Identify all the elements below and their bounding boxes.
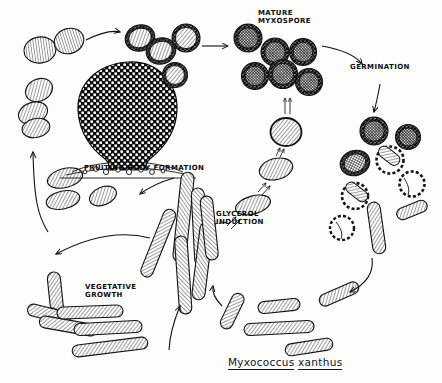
label-mature-myxospore: MATURE MYXOSPORE [258, 10, 311, 26]
mature-myxospore-cell [234, 24, 262, 52]
vegetative-rod [57, 305, 123, 319]
mature-myxospore-cell [290, 39, 317, 66]
life-cycle-diagram: MATURE MYXOSPORE GERMINATION FRUITING BO… [0, 0, 442, 383]
label-germination: GERMINATION [350, 64, 410, 72]
diagram-canvas [0, 0, 442, 383]
mature-myxospore-cell [296, 69, 323, 96]
label-fruiting-body-formation: FRUITING BODY FORMATION [84, 165, 204, 173]
germinating-spore [396, 125, 421, 150]
label-vegetative-growth: VEGETATIVE GROWTH [85, 284, 136, 300]
germinating-spore [360, 117, 388, 145]
mature-myxospore-cell [242, 63, 269, 90]
transitional-spore [163, 63, 188, 88]
species-epithet: xanthus [298, 356, 342, 370]
species-name: Myxococcus xanthus [228, 356, 342, 368]
transitional-spore [172, 24, 200, 52]
mature-myxospore-cell [269, 60, 298, 89]
species-genus: Myxococcus [228, 356, 294, 370]
transition-sphere [271, 118, 302, 146]
label-glycerol-induction: GLYCEROL INDUCTION [216, 211, 264, 227]
